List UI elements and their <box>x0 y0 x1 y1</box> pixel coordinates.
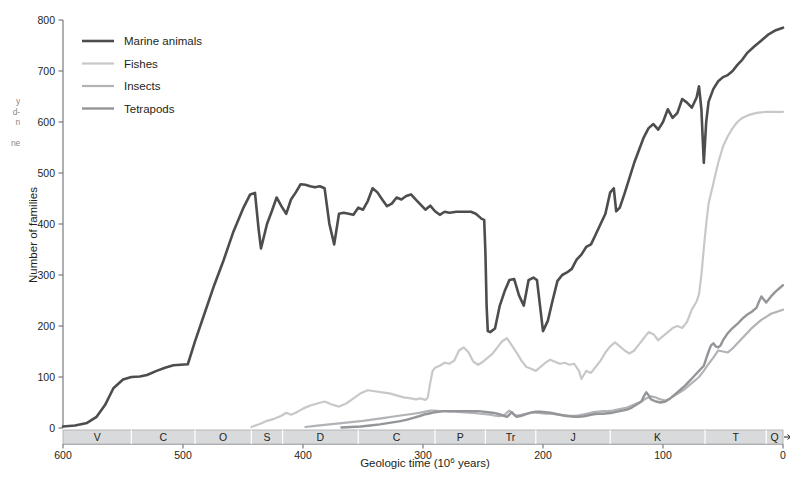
y-tick-label: 400 <box>37 218 55 230</box>
legend-label-insects: Insects <box>124 80 161 92</box>
y-tick-label: 500 <box>37 167 55 179</box>
y-tick-label: 700 <box>37 65 55 77</box>
y-tick-label: 600 <box>37 116 55 128</box>
x-tick-label: 0 <box>780 449 786 461</box>
margin-caption-fragment: y d- n ne <box>0 96 20 149</box>
period-label-c: C <box>159 431 167 443</box>
period-label-p: P <box>457 431 464 443</box>
period-label-tr: Tr <box>506 431 516 443</box>
x-axis-title-main: Geologic time (10 <box>360 457 450 469</box>
legend-label-marine-animals: Marine animals <box>124 35 202 47</box>
y-axis-title-label: Number of families <box>27 187 39 283</box>
x-tick-label: 500 <box>174 449 192 461</box>
y-tick-label: 0 <box>49 422 55 434</box>
chart-canvas: 0100200300400500600700800 60050040030020… <box>0 0 790 488</box>
period-label-q: Q <box>771 431 779 443</box>
x-axis-title-label: Geologic time (106 years) <box>360 456 490 469</box>
period-label-s: S <box>263 431 270 443</box>
x-tick-label: 100 <box>654 449 672 461</box>
period-label-d: D <box>317 431 325 443</box>
plot-background <box>0 0 790 488</box>
x-tick-label: 600 <box>54 449 72 461</box>
y-tick-label: 100 <box>37 371 55 383</box>
period-label-v: V <box>94 431 101 443</box>
legend-label-tetrapods: Tetrapods <box>124 103 175 115</box>
x-tick-label: 400 <box>294 449 312 461</box>
biodiversity-figure: y d- n ne 0100200300400500600700800 6005… <box>0 0 790 488</box>
y-tick-label: 200 <box>37 320 55 332</box>
geologic-timeline-band: VCOSDCPTrJKTQ <box>63 430 790 444</box>
x-axis-title: Geologic time (106 years) <box>360 456 490 469</box>
period-label-k: K <box>654 431 661 443</box>
y-tick-label: 300 <box>37 269 55 281</box>
timeline-band-background <box>63 430 783 444</box>
x-axis-title-tail: years) <box>455 457 490 469</box>
period-label-c: C <box>393 431 401 443</box>
period-label-t: T <box>732 431 739 443</box>
period-label-o: O <box>219 431 227 443</box>
period-label-j: J <box>570 431 575 443</box>
y-tick-label: 800 <box>37 14 55 26</box>
legend-label-fishes: Fishes <box>124 58 158 70</box>
x-tick-label: 200 <box>534 449 552 461</box>
y-axis-title: Number of families <box>27 187 39 283</box>
